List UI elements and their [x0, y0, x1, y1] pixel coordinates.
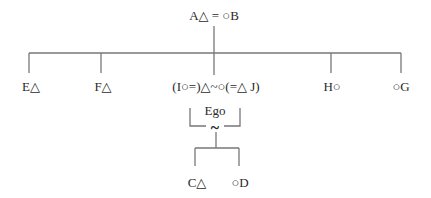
parents-label: A△ = ○B: [189, 9, 239, 23]
sibling-E: E△: [22, 80, 40, 94]
child-D: ○D: [231, 176, 248, 190]
marriage-tilde: ~: [211, 122, 219, 134]
ego-couple-label: (I○=)△~○(=△ J): [172, 80, 259, 94]
ego-label: Ego: [205, 104, 226, 118]
kinship-lines: [0, 0, 431, 198]
bracket-right: [224, 108, 240, 126]
sibling-H: H○: [323, 80, 340, 94]
sibling-F: F△: [94, 80, 111, 94]
sibling-G: ○G: [392, 80, 409, 94]
child-C: C△: [188, 176, 207, 190]
